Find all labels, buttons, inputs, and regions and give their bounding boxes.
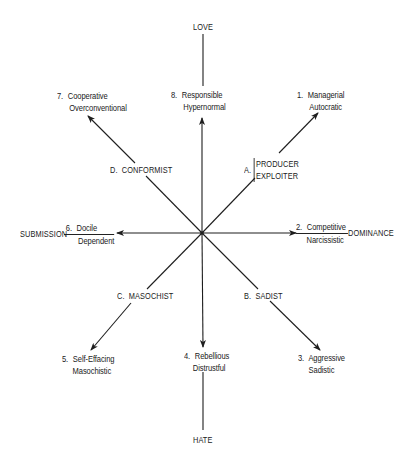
arrow-up-left-upper — [88, 116, 135, 163]
type-3-label: 3. Aggressive Sadistic — [298, 352, 345, 376]
arrow-up-right-lower — [202, 178, 255, 233]
arrow-down-right-upper — [202, 233, 258, 289]
type-6-label: 6. Docile Dependent — [64, 222, 114, 247]
arrow-down — [202, 233, 203, 347]
axis-label-hate: HATE — [193, 434, 212, 446]
axis-label-submission: SUBMISSION — [20, 228, 67, 240]
type-2-label: 2. Competitive Narcissistic — [296, 221, 348, 246]
quadrant-b-label: B. SADIST — [244, 290, 283, 302]
quadrant-a-label: A. PRODUCER EXPLOITER — [244, 158, 299, 182]
arrow-up-left-lower — [146, 176, 202, 233]
center-point — [200, 231, 204, 235]
arrow-up-right-upper — [279, 113, 318, 153]
quadrant-c-label: C. MASOCHIST — [117, 290, 173, 302]
arrow-down-right-lower — [270, 301, 320, 350]
arrow-down-left-upper — [147, 233, 202, 289]
quadrant-d-label: D. CONFORMIST — [110, 164, 172, 176]
type-1-label: 1. Managerial Autocratic — [297, 89, 344, 113]
axis-label-love: LOVE — [193, 21, 213, 33]
type-5-label: 5. Self-Effacing Masochistic — [62, 353, 114, 377]
axis-label-dominance: DOMINANCE — [348, 227, 394, 239]
arrow-down-left-lower — [91, 303, 131, 350]
type-4-label: 4. Rebellious Distrustful — [184, 350, 229, 374]
type-8-label: 8. HypernormalResponsible Hypernormal — [171, 89, 226, 113]
type-7-label: 7. Cooperative Overconventional — [57, 90, 127, 114]
